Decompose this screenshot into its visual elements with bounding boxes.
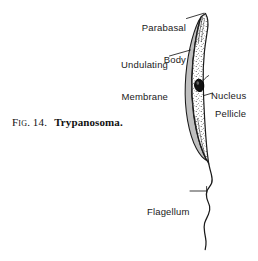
label-pellicle: Pellicle [215, 88, 246, 141]
flagellum-shape [204, 164, 212, 250]
figure-caption: Fig. 14.Trypanosoma. [12, 116, 123, 128]
label-pellicle-line1: Pellicle [215, 109, 246, 120]
figure-trypanosoma: Parabasal Body Undulating Membrane Nucle… [0, 0, 258, 261]
label-flagellum: Flagellum [147, 186, 190, 239]
label-parabasal-body-line1: Parabasal [118, 23, 186, 34]
caption-subject: Trypanosoma. [54, 116, 123, 128]
label-undulating-membrane-line2: Membrane [100, 92, 168, 103]
label-undulating-membrane: Undulating Membrane [100, 39, 168, 123]
caption-fig-number: 14. [33, 116, 47, 128]
caption-fig-word: Fig. [12, 116, 30, 128]
label-undulating-membrane-line1: Undulating [100, 60, 168, 71]
label-flagellum-line1: Flagellum [147, 207, 190, 218]
